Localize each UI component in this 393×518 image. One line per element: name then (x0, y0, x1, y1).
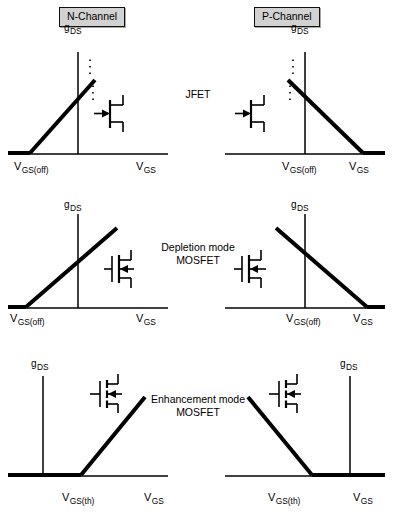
threshold-base: V (286, 312, 293, 324)
x-axis-sub: GS (361, 317, 373, 327)
x-axis-base: V (136, 160, 143, 172)
substrate-arrow-icon (108, 390, 116, 398)
y-axis-base: g (291, 22, 297, 33)
threshold-sub: GS(th) (70, 496, 95, 506)
curve-ramp-segment (288, 80, 363, 153)
y-axis-label-enhancement-n: gDS (31, 358, 48, 369)
gate-arrow-icon (102, 110, 110, 118)
p-channel-depletion-mosfet-symbol (228, 246, 274, 292)
substrate-arrow-icon (120, 265, 128, 273)
x-axis-sub: GS (361, 496, 373, 506)
gate-arrow-icon (243, 110, 251, 118)
y-axis-label-jfet-n: gDS (64, 22, 81, 33)
x-axis-base: V (353, 312, 360, 324)
y-axis-label-depletion-n: gDS (64, 199, 81, 210)
y-axis-base: g (340, 358, 346, 369)
threshold-base: V (62, 491, 69, 503)
y-axis-base: g (31, 358, 37, 369)
p-channel-jfet-symbol (233, 92, 277, 136)
threshold-base: V (282, 160, 289, 172)
threshold-sub: GS(off) (18, 317, 45, 327)
y-axis-sub: DS (37, 362, 49, 372)
y-axis-sub: DS (70, 203, 82, 213)
x-axis-sub: GS (357, 165, 369, 175)
x-axis-sub: GS (152, 496, 164, 506)
substrate-arrow-icon (250, 265, 258, 273)
plot-depletion-n-channel (0, 192, 185, 317)
x-axis-label-depletion-n: VGS (136, 313, 155, 324)
threshold-base: V (10, 312, 17, 324)
y-axis-sub: DS (297, 203, 309, 213)
x-threshold-label-enhancement-p: VGS(th) (268, 492, 300, 503)
substrate-arrow-icon (287, 390, 295, 398)
row-caption-jfet-line1: JFET (185, 88, 210, 100)
x-threshold-label-depletion-n: VGS(off) (10, 313, 44, 324)
x-axis-base: V (349, 160, 356, 172)
y-axis-label-depletion-p: gDS (291, 199, 308, 210)
threshold-base: V (268, 491, 275, 503)
x-axis-label-jfet-n: VGS (136, 161, 155, 172)
x-threshold-label-depletion-p: VGS(off) (286, 313, 320, 324)
x-axis-sub: GS (144, 165, 156, 175)
figure-canvas: N-Channel P-Channel JFET Depletion mode … (0, 0, 393, 518)
x-axis-base: V (353, 491, 360, 503)
y-axis-base: g (64, 199, 70, 210)
threshold-sub: GS(off) (294, 317, 321, 327)
p-channel-enhancement-mosfet-symbol (265, 371, 311, 417)
n-channel-jfet-symbol (92, 92, 136, 136)
column-header-n-channel-label: N-Channel (67, 10, 117, 22)
y-axis-label-jfet-p: gDS (291, 22, 308, 33)
y-axis-base: g (291, 199, 297, 210)
x-axis-label-enhancement-n: VGS (144, 492, 163, 503)
curve-ramp-segment (30, 80, 95, 153)
x-axis-label-depletion-p: VGS (353, 313, 372, 324)
x-threshold-label-jfet-n: VGS(off) (14, 161, 48, 172)
curve-ramp-segment (276, 228, 367, 307)
y-axis-label-enhancement-p: gDS (340, 358, 357, 369)
threshold-sub: GS(off) (290, 165, 317, 175)
column-header-p-channel-label: P-Channel (262, 10, 312, 22)
x-axis-base: V (136, 312, 143, 324)
n-channel-depletion-mosfet-symbol (98, 246, 144, 292)
x-threshold-label-enhancement-n: VGS(th) (62, 492, 94, 503)
y-axis-sub: DS (297, 26, 309, 36)
x-axis-sub: GS (144, 317, 156, 327)
threshold-sub: GS(off) (22, 165, 49, 175)
x-threshold-label-jfet-p: VGS(off) (282, 161, 316, 172)
n-channel-enhancement-mosfet-symbol (86, 371, 132, 417)
x-axis-label-enhancement-p: VGS (353, 492, 372, 503)
x-axis-label-jfet-p: VGS (349, 161, 368, 172)
x-axis-base: V (144, 491, 151, 503)
column-header-p-channel: P-Channel (254, 7, 320, 27)
y-axis-sub: DS (70, 26, 82, 36)
y-axis-base: g (64, 22, 70, 33)
threshold-sub: GS(th) (276, 496, 301, 506)
y-axis-sub: DS (346, 362, 358, 372)
threshold-base: V (14, 160, 21, 172)
